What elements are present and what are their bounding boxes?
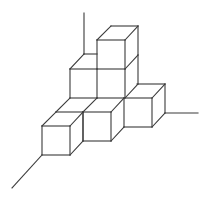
cube-stack-diagram bbox=[0, 0, 212, 204]
